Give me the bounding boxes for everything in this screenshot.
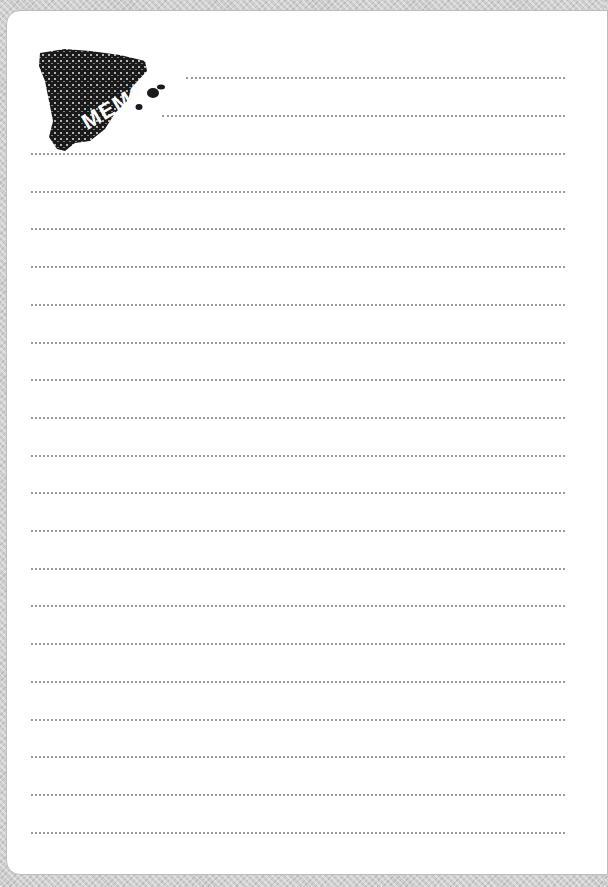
spain-map-icon: MEMO (35, 41, 175, 151)
memo-line[interactable] (31, 342, 565, 344)
memo-line[interactable] (31, 455, 565, 457)
memo-line[interactable] (31, 304, 565, 306)
memo-line[interactable] (31, 794, 565, 796)
memo-line[interactable] (31, 379, 565, 381)
memo-line[interactable] (31, 605, 565, 607)
memo-line[interactable] (31, 191, 565, 193)
memo-line[interactable] (31, 153, 565, 155)
memo-line[interactable] (31, 266, 565, 268)
memo-paper: MEMO (6, 10, 608, 875)
memo-line[interactable] (31, 492, 565, 494)
memo-line[interactable] (31, 756, 565, 758)
memo-line[interactable] (31, 417, 565, 419)
header-line-1[interactable] (186, 77, 565, 79)
memo-line[interactable] (31, 643, 565, 645)
memo-line[interactable] (31, 681, 565, 683)
memo-line[interactable] (31, 228, 565, 230)
memo-line[interactable] (31, 530, 565, 532)
header-line-2[interactable] (162, 115, 565, 117)
memo-line[interactable] (31, 832, 565, 834)
memo-line[interactable] (31, 719, 565, 721)
memo-line[interactable] (31, 568, 565, 570)
